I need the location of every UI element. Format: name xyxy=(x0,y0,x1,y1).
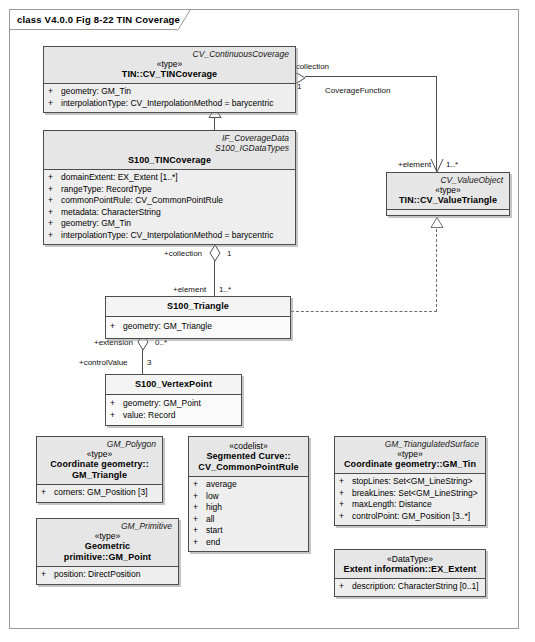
class-cv-tincoverage-header: CV_ContinuousCoverage «type» TIN::CV_TIN… xyxy=(44,47,295,83)
class-ex-extent[interactable]: «DataType» Extent information::EX_Extent… xyxy=(334,549,486,597)
class-cv-tincoverage-qualifier: CV_ContinuousCoverage xyxy=(49,49,290,59)
class-gm-point-stereotype: «type» xyxy=(42,531,173,541)
s100-collection-source-role: +collection xyxy=(164,249,202,258)
class-s100-tincoverage-header: IF_CoverageData S100_IGDataTypes S100_TI… xyxy=(44,131,295,169)
class-gm-tin-header: GM_TriangulatedSurface «type» Coordinate… xyxy=(335,437,485,473)
attribute-row: +stopLines: Set<GM_LineString> xyxy=(339,476,481,488)
class-gm-triangle-name-line1: Coordinate geometry:: xyxy=(42,459,157,470)
attribute-row: +commonPointRule: CV_CommonPointRule xyxy=(48,195,291,207)
class-gm-tin-qualifier: GM_TriangulatedSurface xyxy=(340,439,480,449)
class-cv-valuetriangle-stereotype: «type» xyxy=(392,185,504,195)
aggregation-diamond-s100-collection xyxy=(209,244,221,266)
class-s100-triangle-name: S100_Triangle xyxy=(111,301,285,312)
class-ex-extent-header: «DataType» Extent information::EX_Extent xyxy=(335,550,485,578)
class-gm-triangle-name-line2: GM_Triangle xyxy=(42,470,157,481)
attribute-row: +geometry: GM_Point xyxy=(110,398,237,410)
attribute-row: +low xyxy=(193,491,304,503)
class-cv-tincoverage-stereotype: «type» xyxy=(49,59,290,69)
class-gm-tin[interactable]: GM_TriangulatedSurface «type» Coordinate… xyxy=(334,436,486,526)
class-ex-extent-stereotype: «DataType» xyxy=(340,554,480,564)
attribute-row: +average xyxy=(193,479,304,491)
coverage-function-line-vertical xyxy=(436,76,437,171)
attribute-row: +high xyxy=(193,502,304,514)
triangle-extension-source-role: +extension xyxy=(94,338,133,347)
attribute-row: +controlPoint: GM_Position [3..*] xyxy=(339,511,481,523)
attribute-row: +position: DirectPosition xyxy=(41,569,174,581)
class-cv-valuetriangle-name: TIN::CV_ValueTriangle xyxy=(392,195,504,206)
class-cv-tincoverage[interactable]: CV_ContinuousCoverage «type» TIN::CV_TIN… xyxy=(43,46,296,113)
realization-line-horizontal xyxy=(291,311,437,312)
class-gm-triangle-header: GM_Polygon «type» Coordinate geometry:: … xyxy=(37,437,162,484)
class-cv-commonpointrule-name-line1: Segmented Curve:: xyxy=(194,451,303,462)
attribute-row: +corners: GM_Position [3] xyxy=(41,487,158,499)
attribute-row: +start xyxy=(193,525,304,537)
realization-arrow-valuetriangle xyxy=(430,214,444,232)
class-s100-tincoverage-qualifier-2: S100_IGDataTypes xyxy=(49,143,290,153)
class-s100-tincoverage-qualifier-1: IF_CoverageData xyxy=(49,133,290,143)
attribute-row: +metadata: CharacterString xyxy=(48,207,291,219)
attribute-row: +geometry: GM_Tin xyxy=(48,218,291,230)
diagram-frame-label: class V4.0.0 Fig 8-22 TIN Coverage xyxy=(17,14,180,25)
class-cv-valuetriangle-attributes xyxy=(387,210,509,215)
attribute-row: +rangeType: RecordType xyxy=(48,184,291,196)
class-gm-triangle-qualifier: GM_Polygon xyxy=(42,439,157,449)
class-s100-tincoverage-name: S100_TINCoverage xyxy=(49,155,290,166)
class-cv-tincoverage-name: TIN::CV_TINCoverage xyxy=(49,69,290,80)
realization-line-vertical xyxy=(436,224,437,312)
attribute-row: +end xyxy=(193,537,304,549)
class-s100-triangle-attributes: +geometry: GM_Triangle xyxy=(106,317,290,338)
class-gm-point-name: Geometric primitive::GM_Point xyxy=(42,541,173,563)
class-ex-extent-name: Extent information::EX_Extent xyxy=(340,564,480,575)
triangle-controlvalue-role: +controlValue xyxy=(79,358,128,367)
attribute-row: +interpolationType: CV_InterpolationMeth… xyxy=(48,230,291,242)
coverage-function-source-mult: 1 xyxy=(297,82,301,91)
class-s100-triangle[interactable]: S100_Triangle +geometry: GM_Triangle xyxy=(105,296,291,339)
class-s100-vertexpoint-attributes: +geometry: GM_Point +value: Record xyxy=(106,395,241,425)
class-s100-tincoverage[interactable]: IF_CoverageData S100_IGDataTypes S100_TI… xyxy=(43,130,296,245)
diagram-frame-tab: class V4.0.0 Fig 8-22 TIN Coverage xyxy=(9,9,177,30)
class-cv-tincoverage-attributes: +geometry: GM_Tin +interpolationType: CV… xyxy=(44,84,295,112)
class-gm-point-header: GM_Primitive «type» Geometric primitive:… xyxy=(37,519,178,566)
s100-collection-target-mult: 1..* xyxy=(219,285,231,294)
attribute-row: +domainExtent: EX_Extent [1..*] xyxy=(48,172,291,184)
coverage-function-source-role: +collection xyxy=(291,62,329,71)
class-cv-commonpointrule-literals: +average +low +high +all +start +end xyxy=(189,477,308,551)
class-cv-valuetriangle-qualifier: CV_ValueObject xyxy=(392,175,504,185)
class-gm-tin-stereotype: «type» xyxy=(340,449,480,459)
attribute-row: +description: CharacterString [0..1] xyxy=(339,581,481,593)
class-s100-vertexpoint-header: S100_VertexPoint xyxy=(106,375,241,394)
triangle-controlvalue-mult: 3 xyxy=(147,358,151,367)
class-s100-vertexpoint[interactable]: S100_VertexPoint +geometry: GM_Point +va… xyxy=(105,374,242,426)
attribute-row: +geometry: GM_Tin xyxy=(48,86,291,98)
attribute-row: +breakLines: Set<GM_LineString> xyxy=(339,488,481,500)
class-cv-valuetriangle[interactable]: CV_ValueObject «type» TIN::CV_ValueTrian… xyxy=(386,172,510,216)
attribute-row: +value: Record xyxy=(110,410,237,422)
class-cv-commonpointrule-name-line2: CV_CommonPointRule xyxy=(194,462,303,473)
class-ex-extent-attributes: +description: CharacterString [0..1] xyxy=(335,579,485,596)
s100-collection-target-role: +element xyxy=(173,285,206,294)
class-gm-point-qualifier: GM_Primitive xyxy=(42,521,173,531)
class-cv-commonpointrule-stereotype: «codelist» xyxy=(194,441,303,451)
attribute-row: +geometry: GM_Triangle xyxy=(110,321,286,333)
triangle-extension-source-mult: 0..* xyxy=(155,338,167,347)
s100-collection-source-mult: 1 xyxy=(227,249,231,258)
attribute-row: +interpolationType: CV_InterpolationMeth… xyxy=(48,98,291,110)
class-gm-point[interactable]: GM_Primitive «type» Geometric primitive:… xyxy=(36,518,179,585)
class-gm-triangle-attributes: +corners: GM_Position [3] xyxy=(37,485,162,502)
coverage-function-target-mult: 1..* xyxy=(446,160,458,169)
class-cv-valuetriangle-header: CV_ValueObject «type» TIN::CV_ValueTrian… xyxy=(387,173,509,209)
class-s100-tincoverage-attributes: +domainExtent: EX_Extent [1..*] +rangeTy… xyxy=(44,170,295,244)
uml-class-diagram: class V4.0.0 Fig 8-22 TIN Coverage +coll… xyxy=(0,0,535,642)
coverage-function-target-role: +element xyxy=(398,160,431,169)
class-gm-tin-name: Coordinate geometry::GM_Tin xyxy=(340,459,480,470)
diagram-frame-tab-slant xyxy=(177,9,191,31)
class-cv-commonpointrule-header: «codelist» Segmented Curve:: CV_CommonPo… xyxy=(189,437,308,476)
class-s100-vertexpoint-name: S100_VertexPoint xyxy=(111,379,236,390)
class-s100-triangle-header: S100_Triangle xyxy=(106,297,290,316)
attribute-row: +maxLength: Distance xyxy=(339,499,481,511)
class-gm-tin-attributes: +stopLines: Set<GM_LineString> +breakLin… xyxy=(335,474,485,525)
class-gm-point-attributes: +position: DirectPosition xyxy=(37,567,178,584)
coverage-function-name: CoverageFunction xyxy=(325,86,390,95)
class-cv-commonpointrule[interactable]: «codelist» Segmented Curve:: CV_CommonPo… xyxy=(188,436,309,552)
class-gm-triangle[interactable]: GM_Polygon «type» Coordinate geometry:: … xyxy=(36,436,163,503)
